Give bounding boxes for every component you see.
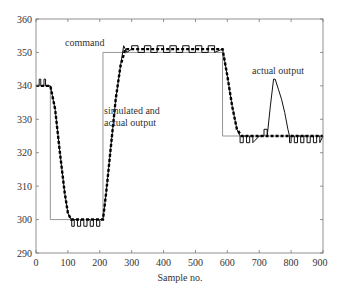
x-tick-label: 0 <box>34 257 39 268</box>
annotation-simulated-and-actual-line1: simulated and <box>104 105 160 116</box>
x-tick-label: 600 <box>220 257 235 268</box>
x-tick-label: 800 <box>284 257 299 268</box>
y-tick-label: 290 <box>17 248 32 259</box>
x-tick-label: 500 <box>188 257 203 268</box>
x-tick-label: 300 <box>124 257 139 268</box>
x-tick-label: 900 <box>313 257 328 268</box>
y-tick-label: 320 <box>17 147 32 158</box>
y-tick-label: 300 <box>17 214 32 225</box>
annotation-actual-output: actual output <box>252 65 304 76</box>
x-tick-label: 400 <box>156 257 171 268</box>
y-tick-label: 330 <box>17 114 32 125</box>
y-tick-label: 360 <box>17 14 32 25</box>
x-tick-label: 200 <box>92 257 107 268</box>
line-chart: 0 100 200 300 400 500 600 700 800 900 29… <box>0 0 342 296</box>
y-tick-label: 350 <box>17 47 32 58</box>
y-tick-label: 310 <box>17 181 32 192</box>
annotation-command: command <box>65 37 104 48</box>
x-tick-label: 100 <box>60 257 75 268</box>
annotation-simulated-and-actual-line2: actual output <box>104 117 156 128</box>
x-tick-label: 700 <box>252 257 267 268</box>
x-axis-label: Sample no. <box>158 272 203 283</box>
chart-background <box>0 0 342 296</box>
y-tick-label: 340 <box>17 80 32 91</box>
